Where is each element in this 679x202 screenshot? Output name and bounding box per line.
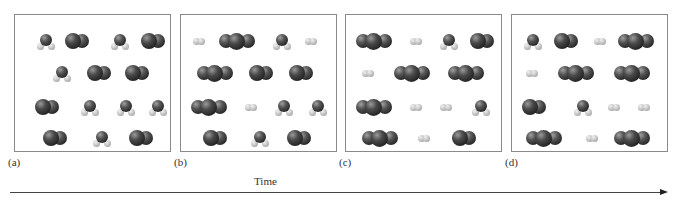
carbon-atom [203,130,219,146]
carbon-atom [129,130,145,146]
carbon-atom [403,65,420,82]
carbon-atom [287,130,303,146]
oxygen-atom [84,100,96,112]
hydrogen-atom [643,104,650,111]
carbon-atom [623,130,640,147]
panel-label: (c) [339,156,351,168]
time-arrow-line [10,192,662,193]
hydrogen-atom [415,38,422,45]
panel-d [511,14,668,152]
carbon-atom [289,65,305,81]
oxygen-atom [96,131,108,143]
oxygen-atom [114,34,126,46]
carbon-atom [35,99,51,115]
panel-label: (a) [8,156,20,168]
hydrogen-atom [423,135,430,142]
hydrogen-atom [198,38,205,45]
carbon-atom [249,65,265,81]
carbon-atom [627,33,644,50]
carbon-atom [228,33,245,50]
carbon-atom [623,65,640,82]
carbon-atom [65,33,81,49]
oxygen-atom [276,34,288,46]
hydrogen-atom [310,38,317,45]
hydrogen-atom [367,70,374,77]
carbon-atom [200,99,217,116]
panel-b [180,14,337,152]
time-axis-label: Time [254,175,277,187]
hydrogen-atom [445,104,452,111]
oxygen-atom [40,34,52,46]
oxygen-atom [577,100,589,112]
carbon-atom [43,130,59,146]
hydrogen-atom [599,38,606,45]
carbon-atom [535,130,552,147]
carbon-atom [554,33,570,49]
oxygen-atom [152,100,164,112]
oxygen-atom [443,34,455,46]
carbon-atom [87,65,103,81]
oxygen-atom [527,34,539,46]
carbon-atom [452,130,468,146]
carbon-atom [141,33,157,49]
carbon-atom [470,33,486,49]
hydrogen-atom [613,104,620,111]
oxygen-atom [312,100,324,112]
carbon-atom [365,99,382,116]
oxygen-atom [120,100,132,112]
oxygen-atom [475,100,487,112]
hydrogen-atom [591,135,598,142]
panel-c [345,14,502,152]
panel-label: (b) [174,156,187,168]
carbon-atom [206,65,223,82]
hydrogen-atom [531,70,538,77]
carbon-atom [371,130,388,147]
panel-a [14,14,171,152]
oxygen-atom [254,131,266,143]
carbon-atom [457,65,474,82]
carbon-atom [365,33,382,50]
panel-label: (d) [505,156,518,168]
carbon-atom [567,65,584,82]
carbon-atom [125,65,141,81]
oxygen-atom [278,100,290,112]
carbon-atom [522,99,538,115]
hydrogen-atom [415,104,422,111]
hydrogen-atom [250,104,257,111]
oxygen-atom [56,66,68,78]
arrow-head-icon [660,189,668,195]
